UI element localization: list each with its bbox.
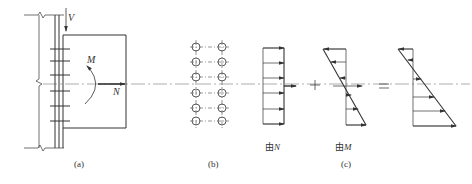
- due-to-m-prefix: 由: [335, 142, 344, 152]
- panel-c-label: (c): [341, 159, 351, 169]
- plus-operator: [310, 80, 320, 90]
- due-to-n-label: 由N: [265, 140, 280, 153]
- panel-a-label: (a): [74, 159, 84, 169]
- top-break-line: [24, 12, 64, 18]
- moment-arc: [85, 66, 96, 104]
- stress-diagram-n: [263, 48, 296, 124]
- shear-force-label: V: [68, 12, 74, 23]
- bolted-connection-diagram: [0, 0, 472, 184]
- due-to-n-symbol: N: [274, 142, 280, 152]
- due-to-m-label: 由M: [335, 140, 352, 153]
- due-to-n-prefix: 由: [265, 142, 274, 152]
- panel-a-connection: [24, 8, 126, 151]
- resultant-stress-diagram: [398, 49, 456, 126]
- panel-b-bolt-pattern: [190, 40, 229, 130]
- equals-operator: [379, 84, 389, 88]
- bottom-break-line: [24, 145, 64, 151]
- bolt-ticks: [50, 49, 70, 121]
- axial-force-label: N: [113, 86, 120, 97]
- stress-diagram-m: [323, 49, 366, 125]
- moment-label: M: [87, 54, 95, 65]
- bracket-plate: [63, 35, 126, 128]
- panel-b-label: (b): [208, 159, 219, 169]
- dimension-line-left: [36, 15, 42, 148]
- due-to-m-symbol: M: [344, 142, 352, 152]
- uniform-force-arrows: [263, 48, 284, 124]
